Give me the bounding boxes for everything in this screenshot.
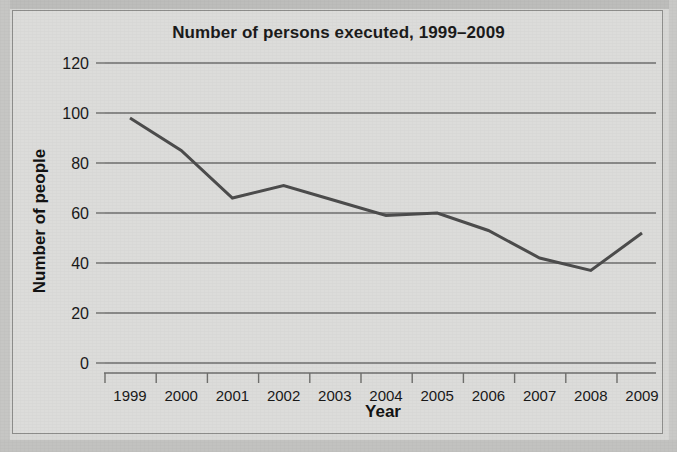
x-tick-label: 2000 bbox=[165, 387, 198, 404]
y-tick-label: 100 bbox=[62, 105, 89, 122]
line-chart-plot: 020406080100120 199920002001200220032004… bbox=[13, 11, 664, 435]
x-axis-title: Year bbox=[365, 402, 401, 421]
scan-edge-bottom bbox=[0, 440, 677, 452]
data-line-series bbox=[130, 118, 642, 271]
scan-edge-top bbox=[0, 0, 677, 9]
x-axis-group bbox=[104, 373, 656, 383]
chart-panel: Number of persons executed, 1999–2009 02… bbox=[12, 10, 663, 434]
x-tick-label: 2008 bbox=[574, 387, 607, 404]
figure-canvas: Number of persons executed, 1999–2009 02… bbox=[0, 0, 677, 452]
x-tick-label: 2002 bbox=[267, 387, 300, 404]
x-tick-label: 2006 bbox=[472, 387, 505, 404]
data-series-group bbox=[130, 118, 642, 271]
y-tick-label: 120 bbox=[62, 55, 89, 72]
x-tick-label: 2001 bbox=[216, 387, 249, 404]
y-tick-label: 0 bbox=[80, 355, 89, 372]
y-tick-labels-group: 020406080100120 bbox=[62, 55, 89, 372]
scan-edge-left bbox=[0, 0, 10, 452]
x-tick-label: 2009 bbox=[625, 387, 658, 404]
x-tick-label: 2007 bbox=[523, 387, 556, 404]
scan-edge-right bbox=[669, 0, 677, 452]
y-tick-label: 80 bbox=[71, 155, 89, 172]
y-tick-label: 40 bbox=[71, 255, 89, 272]
x-tick-label: 2005 bbox=[421, 387, 454, 404]
x-tick-label: 1999 bbox=[113, 387, 146, 404]
y-tick-label: 60 bbox=[71, 205, 89, 222]
y-axis-title: Number of people bbox=[30, 149, 49, 294]
y-tick-label: 20 bbox=[71, 305, 89, 322]
x-tick-label: 2003 bbox=[318, 387, 351, 404]
